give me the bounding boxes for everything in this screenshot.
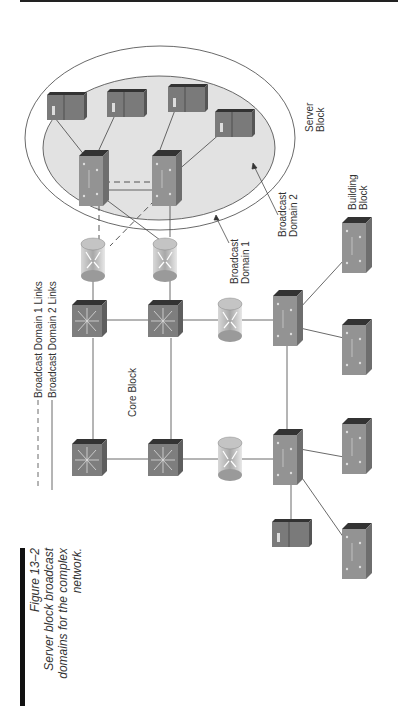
server-3 — [168, 84, 208, 112]
server-switch-1 — [79, 150, 109, 206]
router-4 — [218, 437, 242, 481]
core-switch-1 — [72, 300, 107, 337]
server-4 — [215, 109, 255, 137]
caption-line-1: Server block broadcast — [42, 548, 56, 705]
router-1 — [81, 238, 105, 282]
core-switch-2 — [148, 300, 183, 337]
legend: Broadcast Domain 1 Links Broadcast Domai… — [32, 281, 60, 398]
access-switch-2 — [342, 319, 372, 375]
building-server — [272, 519, 312, 547]
core-switch-4 — [148, 439, 183, 476]
server-2 — [107, 89, 147, 117]
access-switch-1 — [342, 217, 372, 273]
dist-switch-1 — [273, 290, 303, 346]
router-2 — [153, 238, 177, 282]
access-switch-4 — [342, 523, 372, 579]
figure-caption: Figure 13–2 Server block broadcast domai… — [28, 548, 84, 705]
dist-switch-2 — [273, 429, 303, 485]
access-switch-3 — [342, 418, 372, 474]
core-block-label: Core Block — [127, 368, 138, 417]
server-block-label: Server Block — [304, 103, 326, 132]
server-1 — [47, 92, 87, 120]
server-switch-2 — [152, 150, 182, 206]
caption-line-2: domains for the complex — [56, 548, 70, 705]
figure-number: Figure 13–2 — [28, 548, 42, 705]
broadcast-domain-2-label: Broadcast Domain 2 — [277, 192, 299, 237]
broadcast-domain-1-label: Broadcast Domain 1 — [229, 239, 251, 284]
legend-item-bd1: Broadcast Domain 1 Links — [32, 281, 46, 398]
building-block-label: Building Block — [347, 174, 369, 210]
caption-line-3: network. — [70, 548, 84, 705]
legend-item-bd2: Broadcast Domain 2 Links — [46, 281, 60, 398]
router-3 — [218, 298, 242, 342]
caption-bar — [20, 548, 25, 706]
core-switch-3 — [72, 439, 107, 476]
